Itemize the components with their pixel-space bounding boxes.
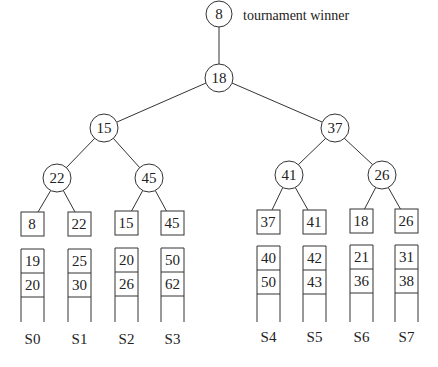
svg-text:8: 8	[215, 6, 223, 22]
run-value: 40	[261, 250, 276, 266]
edge-root-left	[117, 83, 206, 122]
run-value: 62	[165, 276, 180, 292]
run-label: S3	[165, 331, 181, 347]
tournament-tree-diagram: 8 tournament winner 18 15 37 22 45 41 26	[0, 0, 438, 367]
edge	[364, 187, 376, 210]
svg-text:8: 8	[28, 216, 36, 232]
svg-text:18: 18	[354, 213, 369, 229]
run-value: 19	[25, 253, 40, 269]
run-value: 31	[399, 249, 414, 265]
run-value: 25	[72, 253, 87, 269]
edge	[113, 138, 140, 168]
run-labels: S0S1S2S3S4S5S6S7	[25, 329, 415, 347]
run-value: 20	[25, 277, 40, 293]
run-values: 19202530202650624050424321363138	[25, 249, 414, 293]
svg-text:45: 45	[142, 170, 157, 186]
run-value: 38	[399, 273, 414, 289]
root-node: 18	[205, 64, 233, 92]
run-label: S4	[261, 329, 277, 345]
svg-text:22: 22	[72, 216, 87, 232]
edge	[295, 187, 308, 210]
svg-text:37: 37	[328, 120, 344, 136]
internal-node: 26	[368, 161, 396, 189]
edge	[298, 138, 326, 165]
edge	[388, 187, 401, 210]
run-value: 36	[354, 273, 370, 289]
run-label: S6	[354, 329, 370, 345]
edge	[155, 190, 167, 212]
edge	[272, 187, 283, 210]
run-label: S5	[307, 329, 323, 345]
run-value: 20	[119, 252, 134, 268]
edge	[66, 138, 95, 168]
run-value: 43	[307, 274, 322, 290]
run-value: 50	[165, 252, 180, 268]
edge	[38, 190, 51, 212]
svg-text:15: 15	[119, 215, 134, 231]
internal-node: 37	[321, 114, 349, 142]
svg-text:22: 22	[50, 170, 65, 186]
edge	[63, 190, 75, 212]
run-value: 30	[72, 277, 87, 293]
svg-text:37: 37	[261, 214, 277, 230]
internal-node: 41	[275, 161, 303, 189]
run-value: 42	[307, 250, 322, 266]
run-value: 21	[354, 249, 369, 265]
run-label: S1	[72, 331, 88, 347]
run-label: S2	[119, 331, 135, 347]
winner-caption: tournament winner	[243, 8, 349, 23]
run-label: S0	[25, 331, 41, 347]
internal-node: 22	[43, 164, 71, 192]
run-value: 50	[261, 274, 276, 290]
svg-text:41: 41	[282, 167, 297, 183]
svg-text:26: 26	[399, 213, 415, 229]
internal-node: 15	[90, 114, 118, 142]
winner-node: 8	[206, 1, 232, 27]
svg-text:41: 41	[307, 214, 322, 230]
svg-text:26: 26	[375, 167, 391, 183]
svg-text:15: 15	[97, 120, 112, 136]
svg-text:18: 18	[212, 70, 227, 86]
internal-node: 45	[135, 164, 163, 192]
edge	[344, 138, 373, 165]
run-label: S7	[399, 329, 415, 345]
edge-root-right	[232, 83, 322, 122]
edge	[131, 190, 143, 212]
run-value: 26	[119, 276, 135, 292]
svg-text:45: 45	[165, 215, 180, 231]
